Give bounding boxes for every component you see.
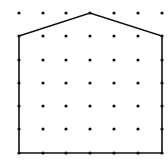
grid-dot bbox=[64, 34, 67, 37]
grid-dot bbox=[64, 81, 67, 84]
grid-dot bbox=[112, 104, 115, 107]
grid-dot bbox=[64, 11, 67, 14]
grid-dot bbox=[17, 58, 20, 61]
grid-dot bbox=[160, 34, 163, 37]
grid-dot bbox=[160, 151, 163, 154]
grid-dot bbox=[112, 151, 115, 154]
grid-dot bbox=[160, 81, 163, 84]
grid-dot bbox=[41, 81, 44, 84]
grid-dot bbox=[160, 104, 163, 107]
grid-dot bbox=[64, 127, 67, 130]
grid-dot bbox=[88, 58, 91, 61]
grid-dot bbox=[112, 58, 115, 61]
grid-dot bbox=[112, 127, 115, 130]
grid-dot bbox=[17, 11, 20, 14]
grid-dot bbox=[64, 58, 67, 61]
grid-dot bbox=[136, 127, 139, 130]
grid-dot bbox=[41, 104, 44, 107]
grid-dot bbox=[17, 104, 20, 107]
grid-dot bbox=[136, 104, 139, 107]
grid-dot bbox=[112, 81, 115, 84]
grid-dot bbox=[17, 151, 20, 154]
grid-dot bbox=[88, 104, 91, 107]
grid-dot bbox=[41, 151, 44, 154]
grid-dot bbox=[88, 34, 91, 37]
grid-dot bbox=[64, 104, 67, 107]
grid-dot bbox=[17, 127, 20, 130]
dot-grid-figure bbox=[0, 0, 168, 163]
grid-dot bbox=[160, 127, 163, 130]
grid-dot bbox=[17, 81, 20, 84]
grid-dot bbox=[64, 151, 67, 154]
grid-dot bbox=[88, 151, 91, 154]
grid-dot bbox=[160, 11, 163, 14]
grid-dot bbox=[136, 58, 139, 61]
grid-dot bbox=[136, 34, 139, 37]
grid-dot bbox=[136, 81, 139, 84]
grid-dot bbox=[88, 11, 91, 14]
grid-dot bbox=[41, 34, 44, 37]
grid-dot bbox=[88, 81, 91, 84]
grid-dot bbox=[136, 11, 139, 14]
grid-dot bbox=[112, 11, 115, 14]
grid-dot bbox=[160, 58, 163, 61]
grid-dot bbox=[136, 151, 139, 154]
grid-dot bbox=[112, 34, 115, 37]
grid-dot bbox=[41, 58, 44, 61]
grid-dot bbox=[41, 11, 44, 14]
grid-dot bbox=[41, 127, 44, 130]
grid-dots bbox=[17, 11, 163, 154]
grid-dot bbox=[17, 34, 20, 37]
grid-dot bbox=[88, 127, 91, 130]
